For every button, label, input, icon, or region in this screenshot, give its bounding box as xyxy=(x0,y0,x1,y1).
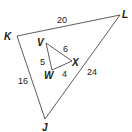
vertex-label-j: J xyxy=(42,122,48,132)
triangle-vwx xyxy=(46,43,72,70)
similar-triangles-diagram: K L J 20 24 16 V X W 6 5 4 xyxy=(0,0,132,132)
vertex-label-k: K xyxy=(4,31,12,42)
side-label-kl: 20 xyxy=(57,15,67,25)
vertex-label-v: V xyxy=(37,37,45,48)
vertex-label-l: L xyxy=(122,9,128,20)
side-label-lj: 24 xyxy=(87,67,97,77)
vertex-label-w: W xyxy=(44,70,55,81)
vertex-label-x: X xyxy=(71,57,80,68)
side-label-vw: 5 xyxy=(40,57,45,67)
side-label-kj: 16 xyxy=(18,76,28,86)
side-label-vx: 6 xyxy=(63,44,68,54)
triangle-jkl xyxy=(17,15,120,119)
side-label-wx: 4 xyxy=(62,69,67,79)
